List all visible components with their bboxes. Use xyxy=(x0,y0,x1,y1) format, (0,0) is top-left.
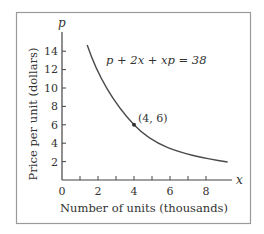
y-tick-label: 10 xyxy=(44,82,58,95)
chart-svg: p x 0 2 4 6 8 xyxy=(0,0,264,234)
x-tick-label: 4 xyxy=(131,185,138,198)
y-tick-label: 2 xyxy=(51,156,58,169)
y-tick-label: 4 xyxy=(51,137,58,150)
x-tick-label: 2 xyxy=(95,185,102,198)
x-axis-variable: x xyxy=(236,173,243,187)
x-tick-label: 8 xyxy=(203,185,210,198)
y-tick-label: 14 xyxy=(44,45,58,58)
chart-figure: p x 0 2 4 6 8 xyxy=(0,0,264,234)
x-tick-label: 6 xyxy=(167,185,174,198)
y-tick-label: 6 xyxy=(51,119,58,132)
point-label: (4, 6) xyxy=(138,112,168,125)
y-tick-label: 8 xyxy=(51,100,58,113)
x-tick-label: 0 xyxy=(59,185,66,198)
point-marker xyxy=(132,123,136,127)
y-axis-variable: p xyxy=(58,16,66,30)
y-tick-label: 12 xyxy=(44,63,58,76)
equation-label: p + 2x + xp = 38 xyxy=(106,53,207,67)
y-axis-title: Price per unit (dollars) xyxy=(26,48,40,181)
x-axis-title: Number of units (thousands) xyxy=(60,201,228,215)
